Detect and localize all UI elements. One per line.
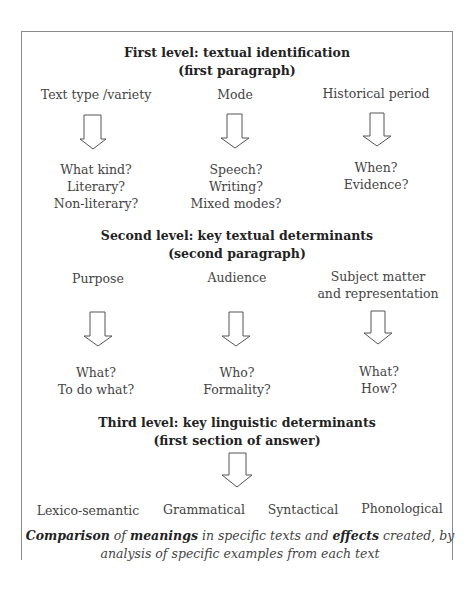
question: Evidence?	[344, 176, 409, 193]
category-lexico-semantic: Lexico-semantic	[37, 502, 140, 519]
footer-note: Comparison of meanings in specific texts…	[26, 527, 455, 563]
level1-col1-label: Text type /variety	[41, 86, 151, 103]
question: What?	[58, 364, 134, 381]
down-arrow-icon	[80, 115, 106, 150]
down-arrow-icon	[362, 113, 392, 148]
level2-title-line1: Second level: key textual determinants	[101, 227, 373, 245]
level2-title: Second level: key textual determinants (…	[101, 227, 373, 263]
level2-title-line2: (second paragraph)	[101, 245, 373, 263]
question: Speech?	[190, 161, 281, 178]
level1-col1-questions: What kind? Literary? Non-literary?	[54, 161, 138, 212]
question: To do what?	[58, 381, 134, 398]
level1-title-line1: First level: textual identification	[124, 44, 350, 62]
level2-col3-questions: What? How?	[359, 363, 399, 397]
down-arrow-icon	[221, 312, 251, 347]
down-arrow-icon	[83, 312, 113, 347]
level3-title: Third level: key linguistic determinants…	[98, 414, 375, 450]
text: of	[110, 528, 130, 543]
down-arrow-icon	[222, 453, 252, 488]
footer-line2: analysis of specific examples from each …	[26, 545, 455, 563]
category-grammatical: Grammatical	[163, 501, 245, 518]
question: Mixed modes?	[190, 195, 281, 212]
text: created, by	[379, 528, 454, 543]
category-phonological: Phonological	[361, 500, 443, 517]
level2-col1-label: Purpose	[72, 270, 124, 287]
level1-col2-label: Mode	[217, 86, 253, 103]
level1-col2-questions: Speech? Writing? Mixed modes?	[190, 161, 281, 212]
emph-meanings: meanings	[130, 528, 198, 543]
category-syntactical: Syntactical	[268, 501, 339, 518]
level1-col3-questions: When? Evidence?	[344, 159, 409, 193]
level3-title-line1: Third level: key linguistic determinants	[98, 414, 375, 432]
level3-title-line2: (first section of answer)	[98, 432, 375, 450]
level1-col3-label: Historical period	[322, 85, 429, 102]
question: When?	[344, 159, 409, 176]
level2-col2-label: Audience	[208, 269, 267, 286]
emph-effects: effects	[332, 528, 379, 543]
question: Literary?	[54, 178, 138, 195]
down-arrow-icon	[220, 114, 250, 149]
question: Non-literary?	[54, 195, 138, 212]
footer-line1: Comparison of meanings in specific texts…	[26, 527, 455, 545]
question: Who?	[203, 364, 271, 381]
text: in specific texts and	[198, 528, 332, 543]
level1-title-line2: (first paragraph)	[124, 62, 350, 80]
label-line: and representation	[317, 285, 438, 302]
question: Formality?	[203, 381, 271, 398]
level2-col1-questions: What? To do what?	[58, 364, 134, 398]
level2-col2-questions: Who? Formality?	[203, 364, 271, 398]
down-arrow-icon	[363, 311, 393, 346]
emph-comparison: Comparison	[26, 528, 110, 543]
question: How?	[359, 380, 399, 397]
level1-title: First level: textual identification (fir…	[124, 44, 350, 80]
question: What kind?	[54, 161, 138, 178]
level2-col3-label: Subject matter and representation	[317, 268, 438, 302]
question: What?	[359, 363, 399, 380]
question: Writing?	[190, 178, 281, 195]
label-line: Subject matter	[317, 268, 438, 285]
